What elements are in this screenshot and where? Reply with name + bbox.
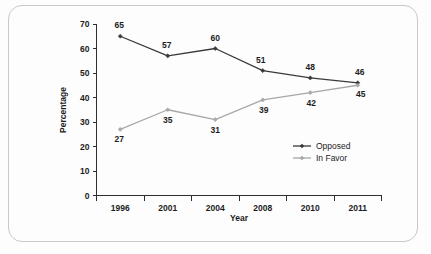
data-point-label: 51	[256, 55, 266, 65]
data-point-marker	[308, 91, 312, 95]
x-axis-tick-label: 2001	[158, 203, 177, 213]
legend-item-in-favor[interactable]: In Favor	[293, 153, 347, 163]
data-point-label: 35	[163, 115, 173, 125]
x-axis-tick-label: 2004	[206, 203, 225, 213]
series-in-favor	[118, 83, 360, 131]
line-chart: 010203040506070 Percentage 1996200120042…	[0, 0, 431, 254]
x-axis-ticks	[97, 196, 382, 201]
data-point-label: 60	[211, 33, 221, 43]
y-axis-tick-label: 40	[80, 93, 90, 103]
y-axis-tick-label: 60	[80, 44, 90, 54]
data-point-marker	[308, 76, 312, 80]
data-point-label: 31	[211, 125, 221, 135]
data-point-marker	[300, 156, 304, 160]
y-axis-title: Percentage	[58, 87, 68, 133]
x-axis-title: Year	[230, 213, 249, 223]
y-axis: 010203040506070 Percentage	[58, 19, 97, 201]
series-opposed	[118, 34, 360, 85]
data-point-label: 65	[115, 20, 125, 30]
y-axis-ticks	[93, 24, 97, 196]
data-series-layer	[118, 34, 360, 131]
data-point-label: 45	[356, 89, 366, 99]
chart-screenshot: 010203040506070 Percentage 1996200120042…	[0, 0, 431, 254]
legend-label: In Favor	[316, 153, 347, 163]
data-point-marker	[213, 117, 217, 121]
chart-legend: OpposedIn Favor	[293, 141, 351, 163]
y-axis-tick-labels: 010203040506070	[80, 19, 90, 201]
data-point-marker	[261, 98, 265, 102]
y-axis-tick-label: 10	[80, 166, 90, 176]
data-point-marker	[213, 46, 217, 50]
data-point-marker	[118, 34, 122, 38]
legend-label: Opposed	[316, 141, 351, 151]
data-point-marker	[166, 108, 170, 112]
x-axis-tick-labels: 199620012004200820102011	[111, 203, 367, 213]
data-point-marker	[300, 144, 304, 148]
data-point-marker	[166, 54, 170, 58]
x-axis-tick-label: 2010	[301, 203, 320, 213]
legend-item-opposed[interactable]: Opposed	[293, 141, 351, 151]
x-axis-tick-label: 2011	[349, 203, 368, 213]
x-axis-tick-label: 1996	[111, 203, 130, 213]
data-point-label: 57	[162, 40, 172, 50]
series-line	[120, 85, 358, 129]
y-axis-tick-label: 0	[85, 191, 90, 201]
data-point-marker	[118, 127, 122, 131]
data-point-marker	[261, 68, 265, 72]
data-point-label: 46	[355, 67, 365, 77]
data-point-labels: 655760514846273531394245	[115, 20, 366, 144]
y-axis-tick-label: 50	[80, 68, 90, 78]
y-axis-tick-label: 30	[80, 117, 90, 127]
data-point-label: 42	[307, 98, 317, 108]
series-line	[120, 36, 358, 83]
x-axis: 199620012004200820102011 Year	[97, 196, 382, 224]
y-axis-tick-label: 70	[80, 19, 90, 29]
data-point-label: 27	[115, 134, 125, 144]
x-axis-tick-label: 2008	[253, 203, 272, 213]
data-point-label: 48	[306, 62, 316, 72]
y-axis-tick-label: 20	[80, 142, 90, 152]
data-point-label: 39	[259, 105, 269, 115]
